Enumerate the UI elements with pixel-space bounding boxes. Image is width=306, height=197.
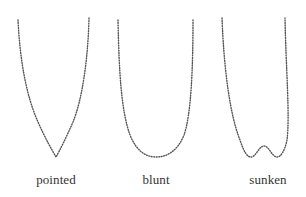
pointed-apex-outline (18, 18, 89, 157)
sunken-apex-outline (222, 18, 288, 157)
blunt-label: blunt (142, 172, 169, 188)
sunken-label: sunken (249, 172, 286, 188)
leaf-apex-diagram: pointed blunt sunken (0, 0, 306, 197)
apex-outlines (0, 0, 306, 197)
pointed-label: pointed (36, 172, 76, 188)
blunt-apex-outline (118, 20, 193, 157)
